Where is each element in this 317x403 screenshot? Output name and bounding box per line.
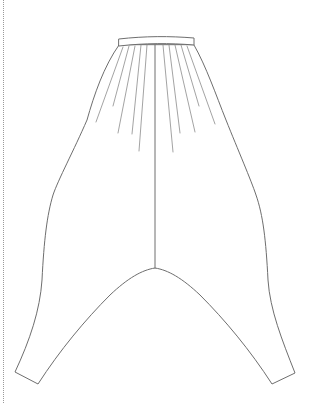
drawing-canvas: [0, 0, 317, 403]
harem-pants-sketch: [0, 0, 317, 403]
